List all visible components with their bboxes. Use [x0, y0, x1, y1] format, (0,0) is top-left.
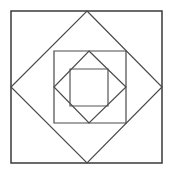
outer-diamond: [11, 11, 162, 163]
outer-square: [11, 11, 162, 163]
nested-shapes-diagram: Nested squares and diamonds geometric fi…: [0, 0, 173, 174]
inner-square: [70, 69, 108, 106]
middle-square: [54, 51, 126, 123]
inner-diamond: [54, 51, 126, 123]
figure-canvas: Nested squares and diamonds geometric fi…: [0, 0, 173, 174]
